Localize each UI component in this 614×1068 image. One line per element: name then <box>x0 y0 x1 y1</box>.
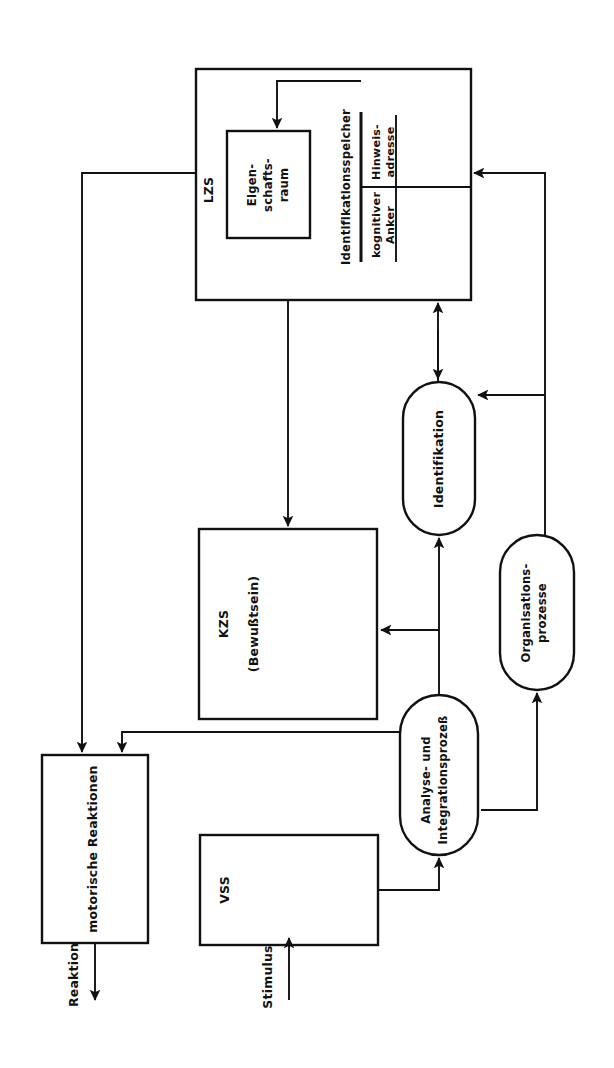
node-kzs-label: KZS <box>216 610 231 638</box>
node-analyse-line2: Integrationsprozeß <box>436 716 450 845</box>
edge-lzs-to-motorische <box>82 173 196 752</box>
edge-vss-to-analyse <box>378 858 439 890</box>
node-hinweisadresse-line1: Hinweis- <box>370 124 383 180</box>
node-kognitiver-anker-line2: Anker <box>384 206 397 244</box>
node-hinweisadresse-line2: adresse <box>384 126 397 177</box>
node-kognitiver-anker-line1: kognitiver <box>370 192 383 258</box>
node-lzs-label: LZS <box>201 177 216 204</box>
node-identifikationsspeicher-label: Identifikationsspeicher <box>339 109 353 265</box>
edge-label-reaktion: Reaktion <box>66 943 81 1007</box>
flow-diagram-svg: LZS Eigen- schafts- raum Identifikations… <box>0 0 614 1068</box>
node-organisationsprozesse-line2: prozesse <box>535 583 549 643</box>
edge-organisationsprozesse-to-lzs <box>474 173 545 535</box>
node-kzs-sublabel: (Bewußtsein) <box>246 576 261 672</box>
edge-analyse-to-organisationsprozesse <box>481 693 537 810</box>
node-vss-label: VSS <box>217 876 232 904</box>
node-eigenschaftsraum-line1: Eigen- <box>245 164 259 206</box>
node-analyse-line1: Analyse- und <box>419 736 433 823</box>
node-eigenschaftsraum-line2: schafts- <box>261 158 275 212</box>
node-identifikation-label: Identifikation <box>431 410 446 508</box>
node-motorische-label: motorische Reaktionen <box>85 765 100 932</box>
edge-label-stimulus: Stimulus <box>260 945 275 1008</box>
edge-analyse-to-motorische <box>122 732 400 752</box>
node-organisationsprozesse-line1: Organisations- <box>519 564 533 663</box>
node-eigenschaftsraum-line3: raum <box>277 168 291 203</box>
diagram-canvas: LZS Eigen- schafts- raum Identifikations… <box>0 0 614 1068</box>
